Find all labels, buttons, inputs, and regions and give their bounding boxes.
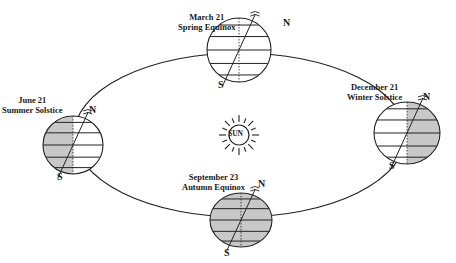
summer-event: Summer Solstice [2,105,63,115]
north-pole-label-autumn: N [258,178,265,189]
winter-event: Winter Solstice [347,92,402,102]
earth-globe-winter [374,96,440,169]
earth-globe-autumn [210,187,272,252]
north-pole-label-winter: N [423,91,430,102]
south-pole-label-spring: S [218,79,224,90]
spring-date: March 21 [178,12,235,22]
spring-event: Spring Equinox [178,22,235,32]
label-spring-equinox: March 21 Spring Equinox [178,12,235,32]
south-pole-label-summer: S [57,171,63,182]
earth-globe-summer [43,110,103,179]
south-pole-label-winter: S [389,160,395,171]
autumn-event: Autumn Equinox [182,182,245,192]
south-pole-label-autumn: S [224,247,230,258]
label-autumn-equinox: September 23 Autumn Equinox [182,172,245,192]
label-winter-solstice: December 21 Winter Solstice [347,82,402,102]
north-pole-label-summer: N [89,104,96,115]
north-pole-label-spring: N [283,17,290,28]
label-summer-solstice: June 21 Summer Solstice [2,95,63,115]
summer-date: June 21 [2,95,63,105]
sun-label: SUN [228,129,243,138]
autumn-date: September 23 [182,172,245,182]
winter-date: December 21 [347,82,402,92]
